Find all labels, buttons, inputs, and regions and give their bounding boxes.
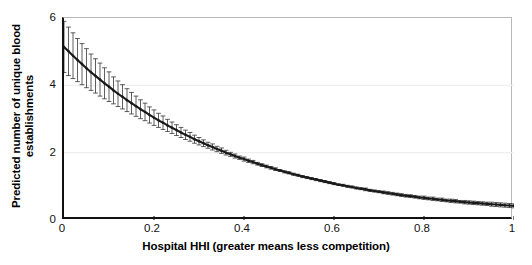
chart-figure: Predicted number of unique blood establi…: [0, 0, 532, 265]
x-tick-label-0.6: 0.6: [312, 223, 352, 234]
y-tick-label-6: 6: [0, 12, 56, 23]
x-axis-title: Hospital HHI (greater means less competi…: [0, 240, 532, 252]
x-tick-label-1: 1: [492, 223, 532, 234]
y-axis-title-wrap: Predicted number of unique blood establi…: [0, 0, 46, 232]
x-tick-label-0: 0: [42, 223, 82, 234]
y-axis-title-line1: Predicted number of unique blood: [10, 24, 24, 208]
y-axis-title: Predicted number of unique blood establi…: [0, 0, 46, 232]
plot-canvas: [64, 18, 514, 220]
x-tick-label-0.4: 0.4: [222, 223, 262, 234]
y-tick-label-2: 2: [0, 147, 56, 158]
x-tick-label-0.2: 0.2: [132, 223, 172, 234]
y-tick-label-4: 4: [0, 79, 56, 90]
plot-area: [62, 17, 512, 219]
x-tick-label-0.8: 0.8: [402, 223, 442, 234]
